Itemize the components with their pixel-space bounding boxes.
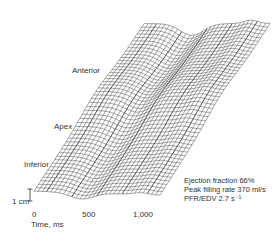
annotation-peak-filling-rate: Peak filling rate 370 ml/s (184, 185, 266, 194)
scale-bar-label: 1 cm (12, 197, 29, 206)
x-tick-0: 0 (32, 210, 36, 219)
x-axis-label: Time, ms (31, 220, 64, 229)
annotation-ejection-fraction: Ejection fraction 66% (184, 176, 254, 185)
label-inferior: Inferior (24, 160, 49, 169)
wireframe-mesh (34, 20, 270, 199)
label-apex: Apex (54, 122, 72, 131)
label-anterior: Anterior (72, 66, 100, 75)
x-tick-1000: 1,000 (133, 210, 153, 219)
x-tick-500: 500 (82, 210, 95, 219)
annotation-pfr-edv: PFR/EDV 2.7 s⁻¹ (184, 194, 241, 203)
